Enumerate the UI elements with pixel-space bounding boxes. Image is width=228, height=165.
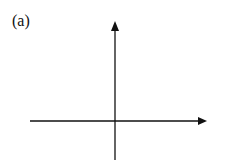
- x-axis: [30, 117, 207, 125]
- y-axis: [111, 21, 119, 160]
- x-axis-arrow-icon: [198, 117, 207, 125]
- coordinate-axes: [0, 0, 228, 165]
- y-axis-arrow-icon: [111, 21, 119, 31]
